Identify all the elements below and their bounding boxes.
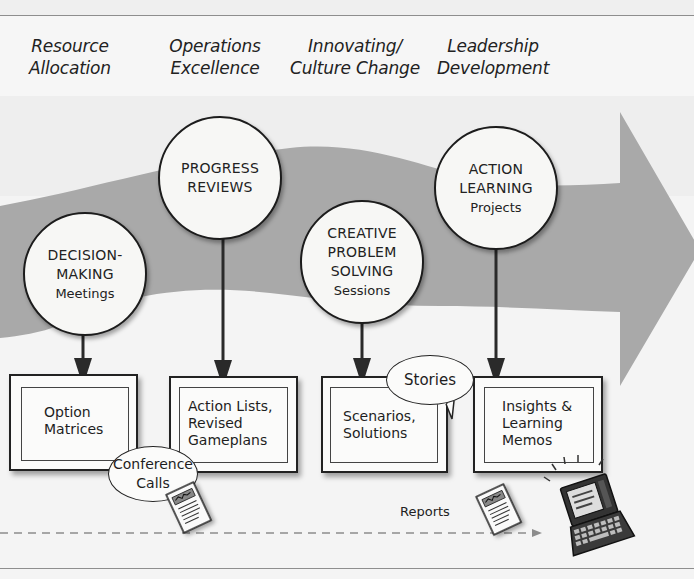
document-icon bbox=[160, 478, 220, 538]
diagram-canvas: Resource Allocation Operations Excellenc… bbox=[0, 0, 694, 579]
laptop-icon bbox=[540, 455, 650, 565]
document-icon bbox=[470, 480, 530, 540]
reports-label: Reports bbox=[400, 504, 450, 519]
